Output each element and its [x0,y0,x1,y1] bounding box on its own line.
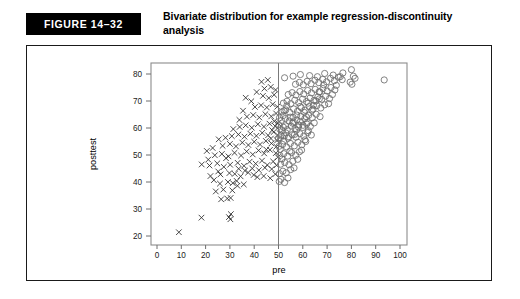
figure-caption: Bivariate distribution for example regre… [163,10,488,37]
figure-panel [26,45,492,281]
figure-number-badge: FIGURE 14–32 [26,13,141,35]
figure-header: FIGURE 14–32 Bivariate distribution for … [26,10,492,44]
